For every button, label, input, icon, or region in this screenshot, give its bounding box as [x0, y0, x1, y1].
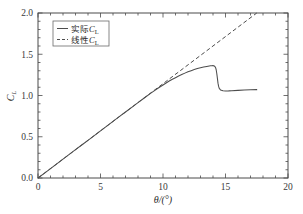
x-tick-label: 15: [221, 182, 231, 192]
legend-label-linear: 线性CL: [71, 35, 99, 46]
series-actual-cl: [38, 66, 257, 178]
y-tick-label: 0.5: [21, 132, 33, 142]
y-tick-label: 1.5: [21, 50, 33, 60]
x-tick-label: 10: [158, 182, 168, 192]
y-axis-title: CL: [5, 90, 17, 101]
y-tick-label: 1.0: [21, 91, 33, 101]
legend-label-actual: 实际CL: [71, 24, 99, 35]
y-axis-tick-labels: 0.00.51.01.52.0: [21, 8, 33, 183]
x-tick-label: 5: [98, 182, 103, 192]
svg-text:CL: CL: [5, 90, 17, 101]
y-tick-label: 0.0: [21, 173, 33, 183]
legend: 实际CL 线性CL: [53, 21, 109, 46]
x-axis-title: θ/(°): [154, 194, 173, 206]
x-tick-label: 20: [283, 182, 293, 192]
chart-figure: 05101520 0.00.51.01.52.0 θ/(°) CL 实际CL 线…: [0, 0, 303, 214]
y-tick-label: 2.0: [21, 8, 33, 18]
x-tick-label: 0: [36, 182, 41, 192]
x-axis-tick-labels: 05101520: [36, 182, 293, 192]
lift-coefficient-chart: 05101520 0.00.51.01.52.0 θ/(°) CL 实际CL 线…: [0, 0, 303, 214]
